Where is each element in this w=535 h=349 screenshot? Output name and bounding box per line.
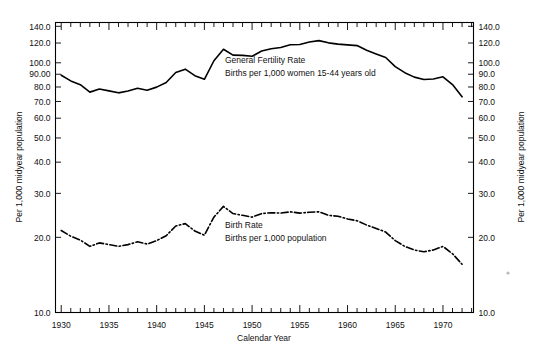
y-tick-label-right-70: 70.0 [479, 97, 496, 107]
x-tick-label-1965: 1965 [386, 320, 405, 330]
x-tick-label-1970: 1970 [434, 320, 453, 330]
y-axis-left-tick-labels: 140.0120.0100.090.0080.070.060.050.040.0… [29, 22, 51, 318]
x-axis-ticks [61, 23, 471, 313]
y-tick-label-left-20: 20.0 [34, 233, 51, 243]
y-tick-label-right-40: 40.0 [479, 157, 496, 167]
birth-rate-annotation: Birth Rate Births per 1,000 population [225, 220, 327, 243]
y-tick-label-right-20: 20.0 [479, 233, 496, 243]
y-tick-label-right-120: 120.0 [479, 38, 501, 48]
gfr-annotation-line1: General Fertility Rate [225, 55, 306, 65]
y-axis-right-tick-labels: 140.0120.0100.090.080.070.060.050.040.03… [479, 22, 501, 318]
x-tick-label-1935: 1935 [99, 320, 118, 330]
birth-annotation-line1: Birth Rate [225, 220, 263, 230]
gfr-annotation-line2: Births per 1,000 women 15-44 years old [225, 68, 376, 78]
y-tick-label-left-40: 40.0 [34, 157, 51, 167]
x-tick-label-1940: 1940 [147, 320, 166, 330]
y-tick-label-left-60: 60.0 [34, 113, 51, 123]
y-axis-left-title: Per 1,000 midyear population [14, 111, 24, 222]
x-tick-label-1945: 1945 [195, 320, 214, 330]
y-axis-right-title: Per 1,000 midyear population [516, 111, 526, 222]
y-tick-label-right-60: 60.0 [479, 113, 496, 123]
scan-artifact-speck [506, 271, 509, 274]
fertility-birth-rate-chart: 193019351940194519501955196019651970 140… [0, 0, 535, 349]
y-tick-label-right-50: 50.0 [479, 133, 496, 143]
y-tick-label-right-10: 10.0 [479, 308, 496, 318]
chart-container: 193019351940194519501955196019651970 140… [0, 0, 535, 349]
x-axis-tick-labels: 193019351940194519501955196019651970 [52, 320, 453, 330]
y-axis-right-ticks [468, 26, 474, 312]
birth-annotation-line2: Births per 1,000 population [225, 233, 327, 243]
y-tick-label-left-120: 120.0 [29, 38, 51, 48]
y-tick-label-left-50: 50.0 [34, 133, 51, 143]
y-tick-label-right-140: 140.0 [479, 22, 501, 32]
y-tick-label-right-100: 100.0 [479, 58, 501, 68]
x-tick-label-1950: 1950 [243, 320, 262, 330]
y-tick-label-left-100: 100.0 [29, 58, 51, 68]
y-tick-label-left-30: 30.0 [34, 189, 51, 199]
x-tick-label-1930: 1930 [52, 320, 71, 330]
x-axis-title: Calendar Year [237, 333, 291, 343]
y-axis-left-ticks [56, 26, 62, 312]
y-tick-label-left-70: 70.0 [34, 97, 51, 107]
x-tick-label-1955: 1955 [290, 320, 309, 330]
gfr-annotation: General Fertility Rate Births per 1,000 … [225, 55, 376, 78]
y-tick-label-left-10: 10.0 [34, 308, 51, 318]
plot-area-border [56, 23, 474, 313]
y-tick-label-right-80: 80.0 [479, 82, 496, 92]
y-tick-label-left-90: 90.00 [29, 69, 51, 79]
y-tick-label-left-140: 140.0 [29, 22, 51, 32]
y-tick-label-right-30: 30.0 [479, 189, 496, 199]
x-tick-label-1960: 1960 [338, 320, 357, 330]
plot-frame [56, 23, 474, 313]
y-tick-label-right-90: 90.0 [479, 69, 496, 79]
y-tick-label-left-80: 80.0 [34, 82, 51, 92]
